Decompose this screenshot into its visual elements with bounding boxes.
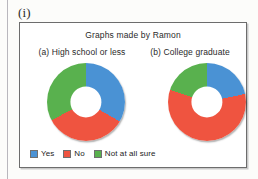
donut-chart-college-graduate <box>168 63 246 141</box>
legend-label-yes: Yes <box>41 149 54 158</box>
legend-item-yes: Yes <box>30 149 54 158</box>
figure-title: Graphs made by Ramon <box>20 30 246 40</box>
item-number-label: (i) <box>18 5 31 21</box>
page-canvas: (i) Graphs made by Ramon (a) High school… <box>0 0 258 179</box>
legend-item-no: No <box>63 149 84 158</box>
legend-swatch-no <box>63 150 71 158</box>
chart-legend: Yes No Not at all sure <box>30 149 156 158</box>
legend-swatch-yes <box>30 150 38 158</box>
panel-caption-a: (a) High school or less <box>28 47 136 57</box>
panel-caption-b: (b) College graduate <box>136 47 244 57</box>
donut-ring-a <box>47 63 125 141</box>
page-margin-rule <box>7 0 8 179</box>
figure-frame: Graphs made by Ramon (a) High school or … <box>19 22 247 168</box>
donut-ring-b <box>168 63 246 141</box>
donut-chart-high-school-or-less <box>47 63 125 141</box>
legend-label-no: No <box>74 149 84 158</box>
legend-label-not-at-all-sure: Not at all sure <box>105 149 156 158</box>
legend-item-not-at-all-sure: Not at all sure <box>94 149 156 158</box>
legend-swatch-not-at-all-sure <box>94 150 102 158</box>
